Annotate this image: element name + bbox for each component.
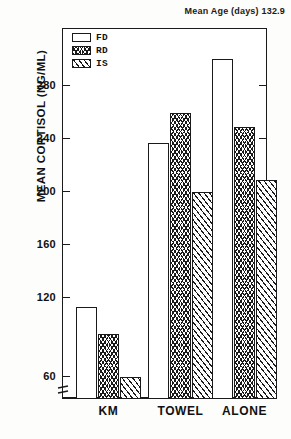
- bar-towel-is: [192, 192, 213, 399]
- bar-alone-is: [256, 180, 277, 399]
- y-tick-label: 280: [37, 79, 56, 91]
- y-tick-left: [62, 85, 70, 86]
- figure-root: Mean Age (days) 132.9 MEAN CORTISOL (NG/…: [0, 0, 291, 439]
- y-tick-label: 200: [37, 185, 56, 197]
- legend-label-rd: RD: [96, 46, 108, 56]
- y-tick-left: [62, 297, 70, 298]
- legend-swatch-rd: [72, 46, 91, 55]
- y-tick-label: 160: [37, 238, 56, 250]
- bar-towel-fd: [148, 143, 169, 399]
- bar-km-is: [120, 377, 141, 399]
- bar-alone-fd: [212, 59, 233, 399]
- legend-swatch-fd: [72, 33, 91, 42]
- x-label-towel: TOWEL: [157, 404, 203, 418]
- y-tick-label: 120: [37, 291, 56, 303]
- x-label-alone: ALONE: [222, 404, 267, 418]
- y-tick-right: [259, 138, 267, 139]
- legend-item: FD: [72, 32, 108, 43]
- y-tick-left: [62, 191, 70, 192]
- legend-swatch-is: [72, 59, 91, 68]
- bar-km-fd: [76, 307, 97, 399]
- bar-towel-rd: [170, 113, 191, 399]
- legend: FD RD IS: [72, 32, 108, 69]
- legend-item: RD: [72, 45, 108, 56]
- bar-alone-rd: [234, 127, 255, 399]
- y-tick-left: [62, 244, 70, 245]
- y-tick-left: [62, 138, 70, 139]
- legend-item: IS: [72, 58, 108, 69]
- bar-km-rd: [98, 334, 119, 399]
- legend-label-fd: FD: [96, 33, 108, 43]
- figure-note: Mean Age (days) 132.9: [185, 6, 285, 16]
- y-tick-label: 240: [37, 132, 56, 144]
- legend-label-is: IS: [96, 59, 108, 69]
- y-tick-label: 60: [43, 370, 56, 382]
- y-tick-right: [259, 85, 267, 86]
- y-tick-left: [62, 376, 70, 377]
- x-label-km: KM: [99, 404, 119, 418]
